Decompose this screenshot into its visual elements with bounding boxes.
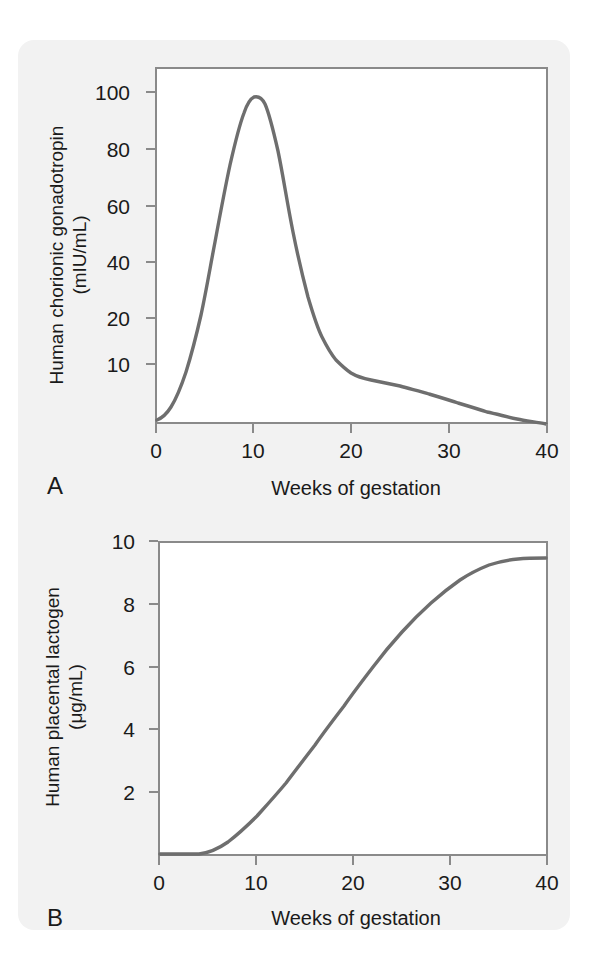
panel-b-xtick-mark-10 [255, 856, 257, 865]
panel-b-xtick-label-30: 30 [425, 872, 475, 893]
panel-a-ytick-mark-40 [146, 261, 155, 263]
panel-b-ytick-mark-10 [149, 540, 158, 542]
panel-b-ytick-mark-4 [149, 728, 158, 730]
panel-b-ytick-mark-2 [149, 791, 158, 793]
panel-b-ytick-mark-6 [149, 666, 158, 668]
panel-b: Human placental lactogen (μg/mL) 10 8 6 … [0, 500, 596, 970]
panel-a-ytick-label-20: 20 [80, 308, 130, 329]
panel-b-x-axis-title: Weeks of gestation [226, 907, 486, 929]
panel-b-curve-svg [160, 543, 546, 854]
panel-b-ytick-mark-8 [149, 603, 158, 605]
panel-a-xtick-mark-40 [546, 424, 548, 433]
panel-b-y-axis-title: Human placental lactogen (μg/mL) [41, 527, 87, 867]
panel-b-letter: B [47, 906, 63, 930]
panel-b-ytick-label-10: 10 [85, 531, 135, 552]
panel-a-ytick-mark-20 [146, 317, 155, 319]
panel-b-xtick-label-0: 0 [134, 872, 184, 893]
panel-b-xtick-mark-30 [449, 856, 451, 865]
panel-a-letter: A [47, 474, 63, 498]
panel-a-xtick-label-10: 10 [228, 440, 278, 461]
panel-b-xtick-mark-40 [546, 856, 548, 865]
panel-a-plot-area [155, 67, 548, 424]
panel-a-xtick-mark-30 [448, 424, 450, 433]
panel-a-ytick-label-40: 40 [80, 252, 130, 273]
panel-a-xtick-mark-20 [350, 424, 352, 433]
panel-a-x-axis-title: Weeks of gestation [226, 477, 486, 499]
panel-a-xtick-mark-10 [252, 424, 254, 433]
panel-a-xtick-label-40: 40 [522, 440, 572, 461]
panel-b-xtick-mark-0 [158, 856, 160, 865]
panel-b-xtick-label-10: 10 [231, 872, 281, 893]
panel-b-ytick-label-2: 2 [85, 782, 135, 803]
panel-b-xtick-label-20: 20 [328, 872, 378, 893]
panel-a-xtick-label-20: 20 [326, 440, 376, 461]
panel-a: Human chorionic gonadotropin (mIU/mL) 10… [0, 0, 596, 500]
panel-b-plot-area [158, 541, 548, 856]
panel-a-xtick-mark-0 [155, 424, 157, 433]
panel-a-ytick-label-10: 10 [80, 354, 130, 375]
panel-b-ytick-label-6: 6 [85, 657, 135, 678]
panel-b-xtick-mark-20 [352, 856, 354, 865]
panel-a-ytick-label-80: 80 [80, 139, 130, 160]
panel-a-ytick-mark-10 [146, 363, 155, 365]
panel-b-ytick-label-4: 4 [85, 719, 135, 740]
panel-b-ytick-label-8: 8 [85, 594, 135, 615]
panel-a-ytick-mark-60 [146, 205, 155, 207]
panel-a-curve-svg [157, 69, 546, 422]
panel-a-ytick-label-60: 60 [80, 196, 130, 217]
panel-a-ytick-mark-100 [146, 91, 155, 93]
panel-a-xtick-label-30: 30 [424, 440, 474, 461]
panel-a-xtick-label-0: 0 [131, 440, 181, 461]
panel-a-ytick-label-100: 100 [80, 82, 130, 103]
panel-a-ytick-mark-80 [146, 148, 155, 150]
panel-b-xtick-label-40: 40 [522, 872, 572, 893]
